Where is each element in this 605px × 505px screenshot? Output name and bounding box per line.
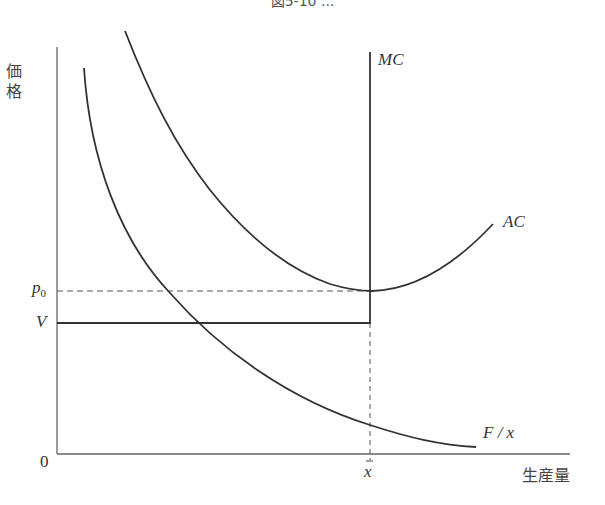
p0-symbol: p	[32, 278, 41, 297]
ac-curve	[125, 31, 493, 291]
xbar-tick-label: x	[364, 462, 372, 482]
ac-label: AC	[503, 212, 525, 232]
fx-label: F / x	[483, 423, 514, 443]
v-tick-label: V	[36, 312, 46, 332]
x-axis-label: 生産量	[522, 462, 570, 486]
chart-canvas	[0, 0, 605, 505]
p0-subscript: 0	[41, 287, 47, 299]
y-axis-label: 価格	[6, 62, 26, 102]
p0-tick-label: p0	[32, 278, 46, 299]
origin-label: 0	[40, 452, 49, 472]
mc-label: MC	[378, 50, 404, 70]
